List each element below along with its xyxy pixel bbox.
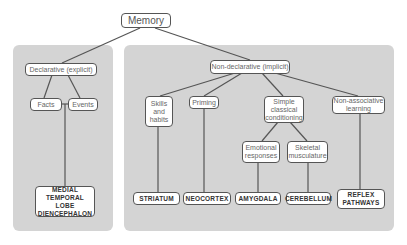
skeletal-musculature-node: Skeletal musculature (287, 141, 328, 163)
events-node: Events (68, 98, 98, 111)
simple-classical-conditioning-node: Simple classical conditioning (264, 96, 304, 123)
emotional-responses-node: Emotional responses (242, 141, 280, 163)
memory-node: Memory (121, 13, 171, 28)
non-associative-learning-node: Non-associative learning (332, 96, 385, 114)
nondeclarative-node: Non-declarative (implicit) (210, 60, 290, 74)
neocortex-node: NEOCORTEX (183, 192, 231, 205)
amygdala-node: AMYGDALA (235, 192, 281, 205)
medial-temporal-lobe-node: MEDIAL TEMPORAL LOBE DIENCEPHALON (35, 186, 95, 217)
reflex-pathways-node: REFLEX PATHWAYS (337, 189, 385, 209)
declarative-node: Declarative (explicit) (25, 63, 97, 76)
cerebellum-node: CEREBELLUM (286, 192, 331, 205)
striatum-node: STRIATUM (133, 192, 180, 205)
priming-node: Priming (189, 96, 219, 109)
facts-node: Facts (30, 98, 62, 111)
skills-habits-node: Skills and habits (145, 96, 173, 127)
